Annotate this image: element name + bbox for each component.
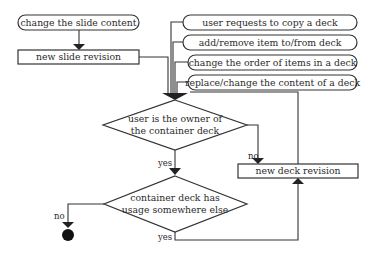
process-label: new slide revision <box>36 51 121 62</box>
end-terminal-icon <box>62 229 74 241</box>
event-label: change the order of items in a deck <box>189 57 357 68</box>
process-new-slide-revision: new slide revision <box>18 50 139 64</box>
decision-line2: the container deck <box>131 125 220 136</box>
event-label: add/remove item to/from deck <box>199 37 342 48</box>
decision-has-usage: container deck has usage somewhere else <box>104 176 247 232</box>
event-copy-deck: user requests to copy a deck <box>183 15 357 30</box>
edge-label-owner-yes: yes <box>157 158 172 168</box>
process-label: new deck revision <box>255 165 340 176</box>
edge-label-usage-no: no <box>54 211 65 221</box>
event-change-slide-content: change the slide content <box>18 15 139 30</box>
event-replace-content: replace/change the content of a deck <box>185 75 360 90</box>
decision-is-owner: user is the owner of the container deck <box>103 100 247 150</box>
edge-label-usage-yes: yes <box>157 232 172 242</box>
event-add-remove-item: add/remove item to/from deck <box>183 35 357 50</box>
decision-line1: user is the owner of <box>128 113 223 124</box>
event-label: replace/change the content of a deck <box>185 77 360 88</box>
event-label: change the slide content <box>20 17 136 28</box>
decision-line2: usage somewhere else <box>122 204 229 215</box>
edge-label-owner-no: no <box>248 151 259 161</box>
event-label: user requests to copy a deck <box>202 17 338 28</box>
decision-line1: container deck has <box>130 192 220 203</box>
event-change-order: change the order of items in a deck <box>188 55 357 70</box>
process-new-deck-revision: new deck revision <box>238 164 358 178</box>
